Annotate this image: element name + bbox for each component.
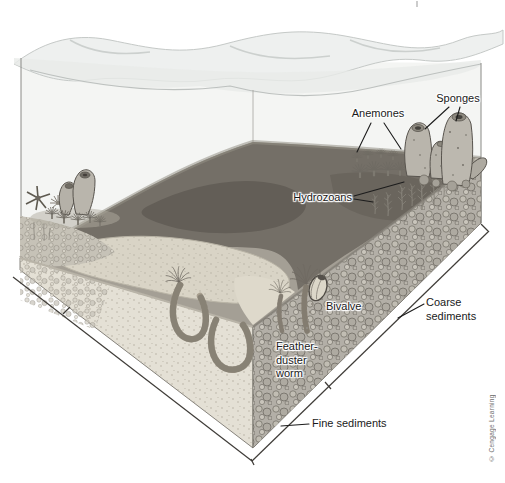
label-line: Coarse: [426, 296, 476, 310]
label-sponges: Sponges: [436, 92, 479, 106]
label-coarse-sediments: Coarse sediments: [426, 296, 476, 323]
label-line: worm: [276, 367, 318, 381]
seafloor-sediment-figure: Anemones Sponges Hydrozoans Bivalve Feat…: [0, 0, 505, 483]
label-line: duster: [276, 354, 318, 368]
fine-sediments-leader: [281, 424, 309, 426]
label-line: Feather-: [276, 340, 318, 354]
illustration-canvas: [0, 0, 505, 483]
label-feather-duster-worm: Feather- duster worm: [276, 340, 318, 381]
label-hydrozoans: Hydrozoans: [293, 191, 352, 205]
label-anemones: Anemones: [352, 107, 405, 121]
copyright-credit: © Cengage Learning: [488, 372, 495, 462]
label-line: sediments: [426, 310, 476, 324]
label-fine-sediments: Fine sediments: [312, 417, 387, 431]
label-bivalve: Bivalve: [326, 300, 361, 314]
